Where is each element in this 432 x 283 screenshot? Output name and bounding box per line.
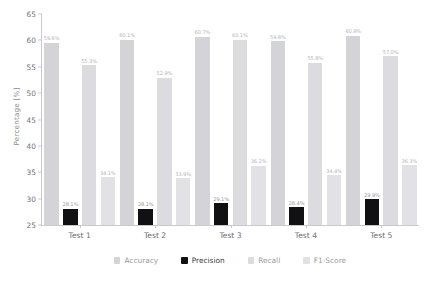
x-axis-tick-label: Test 4	[295, 231, 317, 240]
legend-swatch-icon	[181, 257, 188, 264]
bar-f1-score: 36.3%	[402, 165, 417, 225]
y-axis-tick-label: 45	[8, 115, 36, 124]
bar-recall: 55.3%	[82, 65, 97, 225]
bar-group: 59.8%28.4%55.8%34.4%	[268, 14, 343, 225]
bar-f1-score: 34.1%	[101, 177, 116, 225]
bar-value-label: 59.6%	[44, 35, 60, 41]
bar-f1-score: 36.2%	[251, 166, 266, 225]
x-axis-tick-mark	[231, 225, 232, 228]
legend-item-recall[interactable]: Recall	[248, 256, 281, 265]
plot-area: 25303540455055606559.6%28.1%55.3%34.1%Te…	[41, 14, 419, 226]
x-axis-tick-label: Test 3	[219, 231, 241, 240]
bar-value-label: 55.8%	[307, 55, 323, 61]
legend-swatch-icon	[248, 257, 255, 264]
y-axis-tick-label: 30	[8, 194, 36, 203]
legend-label: Recall	[258, 256, 280, 265]
bar-value-label: 28.1%	[138, 201, 154, 207]
x-axis-tick-label: Test 5	[370, 231, 392, 240]
legend-item-precision[interactable]: Precision	[181, 256, 224, 265]
bar-accuracy: 60.1%	[120, 40, 135, 225]
y-axis-tick-label: 35	[8, 168, 36, 177]
x-axis-tick-label: Test 2	[144, 231, 166, 240]
bar-accuracy: 59.6%	[44, 43, 59, 226]
bar-value-label: 59.8%	[270, 34, 286, 40]
y-axis-tick-label: 50	[8, 89, 36, 98]
legend-label: F1-Score	[314, 256, 346, 265]
bar-recall: 60.1%	[233, 40, 248, 225]
bar-value-label: 34.1%	[100, 170, 116, 176]
bar-f1-score: 34.4%	[327, 175, 342, 225]
bar-value-label: 36.3%	[402, 158, 418, 164]
y-axis-tick-label: 65	[8, 10, 36, 19]
bar-precision: 28.1%	[138, 209, 153, 225]
legend-label: Accuracy	[124, 256, 158, 265]
bar-value-label: 52.9%	[157, 70, 173, 76]
bar-accuracy: 59.8%	[271, 41, 286, 225]
bar-value-label: 29.9%	[364, 192, 380, 198]
y-axis-tick-label: 60	[8, 36, 36, 45]
bar-value-label: 28.4%	[289, 200, 305, 206]
bar-precision: 29.9%	[365, 199, 380, 225]
bar-group: 59.6%28.1%55.3%34.1%	[42, 14, 117, 225]
legend-item-accuracy[interactable]: Accuracy	[114, 256, 158, 265]
bar-value-label: 60.7%	[195, 29, 211, 35]
y-axis-tick-label: 55	[8, 62, 36, 71]
bar-chart: Percentage [%] 25303540455055606559.6%28…	[0, 0, 432, 283]
bar-value-label: 55.3%	[81, 58, 97, 64]
bar-group: 60.9%29.9%57.0%36.3%	[344, 14, 419, 225]
bar-accuracy: 60.9%	[346, 36, 361, 225]
legend-swatch-icon	[303, 257, 310, 264]
bar-recall: 55.8%	[308, 63, 323, 225]
bar-recall: 52.9%	[157, 78, 172, 225]
bar-recall: 57.0%	[383, 56, 398, 225]
chart-legend: AccuracyPrecisionRecallF1-Score	[41, 256, 419, 265]
bar-precision: 29.1%	[214, 203, 229, 225]
plot-inner: 25303540455055606559.6%28.1%55.3%34.1%Te…	[42, 14, 419, 225]
x-axis-tick-label: Test 1	[69, 231, 91, 240]
bar-value-label: 57.0%	[383, 49, 399, 55]
legend-label: Precision	[192, 256, 225, 265]
x-axis-tick-mark	[381, 225, 382, 228]
bar-value-label: 29.1%	[213, 196, 229, 202]
bar-value-label: 60.9%	[345, 28, 361, 34]
x-axis-tick-mark	[306, 225, 307, 228]
bar-accuracy: 60.7%	[195, 37, 210, 225]
bar-precision: 28.4%	[289, 207, 304, 225]
x-axis-tick-mark	[80, 225, 81, 228]
bar-group: 60.1%28.1%52.9%33.9%	[117, 14, 192, 225]
bar-value-label: 28.1%	[63, 201, 79, 207]
y-axis-tick-label: 25	[8, 221, 36, 230]
bar-f1-score: 33.9%	[176, 178, 191, 225]
bar-value-label: 60.1%	[232, 32, 248, 38]
legend-swatch-icon	[114, 257, 121, 264]
bar-value-label: 33.9%	[175, 171, 191, 177]
bar-value-label: 60.1%	[119, 32, 135, 38]
bar-precision: 28.1%	[63, 209, 78, 225]
legend-item-f1-score[interactable]: F1-Score	[303, 256, 346, 265]
x-axis-tick-mark	[155, 225, 156, 228]
bar-value-label: 34.4%	[326, 168, 342, 174]
y-axis-tick-label: 40	[8, 141, 36, 150]
bar-group: 60.7%29.1%60.1%36.2%	[193, 14, 268, 225]
bar-value-label: 36.2%	[251, 158, 267, 164]
